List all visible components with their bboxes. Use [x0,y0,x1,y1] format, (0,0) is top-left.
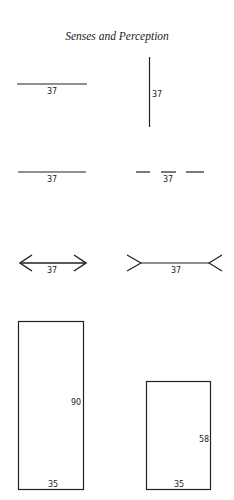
tall-rectangle-height-label: 90 [71,398,81,407]
horizontal-line-label: 37 [47,87,57,96]
arrows-outward-label: 37 [171,266,181,275]
muller-lyer-outward-figure [127,255,209,271]
illusion-figures: 37 37 37 37 37 37 90 35 58 35 [0,0,234,500]
muller-lyer-outward-right-fin [209,255,222,271]
arrows-inward-label: 37 [47,266,57,275]
broken-line-label: 37 [163,175,173,184]
vertical-line-label: 37 [152,90,162,99]
tall-rectangle-width-label: 35 [48,480,58,489]
short-rectangle-height-label: 58 [199,435,209,444]
solid-line-label: 37 [47,175,57,184]
short-rectangle-width-label: 35 [174,480,184,489]
